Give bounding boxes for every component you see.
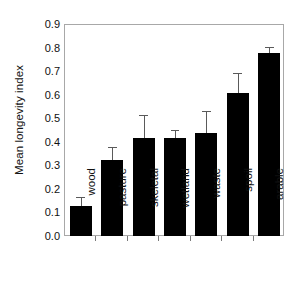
error-bar-cap: [265, 47, 274, 48]
error-bar-stem: [175, 130, 176, 138]
y-axis-tick-label: 0.9: [26, 19, 60, 30]
error-bar-cap: [233, 73, 242, 74]
x-axis-tick-label: wood: [85, 168, 99, 242]
y-axis-tick-label: 0.4: [26, 136, 60, 147]
error-bar-stem: [238, 73, 239, 93]
error-bar-stem: [144, 115, 145, 139]
y-axis-tick-label: 0.0: [26, 231, 60, 242]
error-bar-stem: [269, 47, 270, 53]
y-axis-tick-label: 0.6: [26, 89, 60, 100]
error-bar-cap: [139, 115, 148, 116]
error-bar-cap: [202, 111, 211, 112]
y-axis-tick-label: 0.1: [26, 207, 60, 218]
y-axis-tick-label: 0.2: [26, 183, 60, 194]
y-axis-tick-label: 0.3: [26, 160, 60, 171]
y-axis-title-text: Mean longevity index: [13, 65, 25, 175]
y-axis-tick-label: 0.5: [26, 113, 60, 124]
error-bar-cap: [76, 197, 85, 198]
x-axis-tick-label: skeletal: [148, 168, 162, 242]
x-axis-tick-label: spoil: [242, 168, 256, 242]
error-bar-stem: [206, 111, 207, 133]
y-axis-tick-label: 0.7: [26, 66, 60, 77]
x-axis-tick-label: pasture: [116, 168, 130, 242]
y-axis-tick-label: 0.8: [26, 42, 60, 53]
error-bar-cap: [108, 147, 117, 148]
error-bar-stem: [112, 147, 113, 160]
chart-figure: Mean longevity index 0.00.10.20.30.40.50…: [0, 0, 302, 300]
error-bar-cap: [171, 130, 180, 131]
x-axis-tick-label: waste: [210, 168, 224, 242]
error-bar-stem: [81, 197, 82, 206]
x-axis-tick-label: arable: [273, 168, 287, 242]
x-axis-tick-label: wetland: [179, 168, 193, 242]
